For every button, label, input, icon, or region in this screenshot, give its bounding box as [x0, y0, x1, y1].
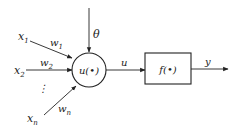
threshold: θ — [89, 8, 100, 52]
weight-w1-label: w1 — [50, 37, 63, 51]
neuron-diagram: x1 w1 x2 w2 ⋮ xn wn θ u(•) u f(•) y — [0, 0, 237, 135]
input-xn-label: xn — [27, 112, 38, 127]
input-x2: x2 w2 — [14, 57, 72, 79]
weight-wn-label: wn — [58, 103, 72, 117]
threshold-label: θ — [93, 28, 100, 41]
input-x2-label: x2 — [14, 64, 25, 79]
ellipsis: ⋮ — [38, 83, 48, 94]
intermediate-label: u — [121, 57, 127, 68]
activation-block: f(•) — [145, 53, 191, 84]
input-x1-label: x1 — [18, 30, 29, 45]
activation-label: f(•) — [158, 64, 177, 75]
output-label: y — [204, 56, 211, 67]
summation-label: u(•) — [79, 65, 99, 76]
summation-node: u(•) — [72, 53, 106, 87]
input-xn: xn wn — [27, 86, 76, 127]
input-x1: x1 w1 — [18, 30, 72, 58]
weight-w2-label: w2 — [40, 57, 54, 71]
